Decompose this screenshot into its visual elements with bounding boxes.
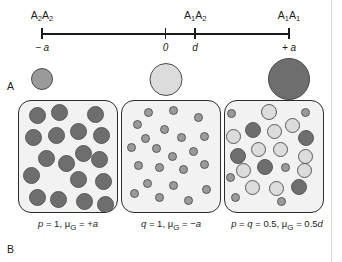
axis-value-label-tick-plus-a: + a (282, 42, 296, 53)
individual-dot (267, 124, 282, 139)
individual-dot (48, 127, 65, 144)
individual-dot (130, 189, 139, 198)
genotypic-value-figure: A2A2− a0A1A2dA1A1+ a A p = 1, μG = +aq =… (0, 0, 342, 262)
individual-dot (298, 130, 314, 146)
individual-dot (269, 181, 284, 196)
individual-dot (38, 150, 55, 167)
individual-dot (155, 193, 164, 202)
panel-label-a: A (7, 80, 14, 92)
tick-minus-a (41, 28, 43, 39)
individual-dot (184, 196, 193, 205)
individual-dot (50, 191, 67, 208)
ref-circle-A2A2 (31, 68, 53, 90)
individual-dot (231, 193, 240, 202)
individual-dot (143, 179, 152, 188)
individual-dot (169, 181, 178, 190)
tick-plus-a (288, 28, 290, 39)
axis-genotype-label-A2A2: A2A2 (31, 9, 53, 21)
individual-dot (29, 107, 46, 124)
individual-dot (285, 118, 300, 133)
individual-dot (202, 185, 211, 194)
individual-dot (160, 125, 169, 134)
individual-dot (226, 129, 241, 144)
population-pq05-caption: p = q = 0.5, μG = 0.5d (231, 218, 323, 232)
individual-dot (169, 106, 178, 115)
individual-dot (29, 189, 46, 206)
population-q1-box (121, 100, 221, 213)
individual-dot (179, 165, 188, 174)
axis-genotype-label-A1A1: A1A1 (278, 9, 300, 21)
individual-dot (227, 109, 236, 118)
tick-d (194, 28, 196, 39)
individual-dot (230, 148, 246, 164)
page-edge-line (331, 0, 332, 262)
individual-dot (93, 127, 110, 144)
individual-dot (245, 180, 260, 195)
individual-dot (75, 145, 92, 162)
axis-value-label-tick-minus-a: − a (35, 42, 49, 53)
individual-dot (127, 143, 136, 152)
individual-dot (76, 193, 93, 210)
individual-dot (298, 149, 313, 164)
population-p1-caption: p = 1, μG = +a (38, 218, 98, 232)
axis-genotype-label-A1A2: A1A2 (184, 9, 206, 21)
individual-dot (281, 163, 290, 172)
individual-dot (257, 159, 273, 175)
individual-dot (200, 132, 209, 141)
individual-dot (177, 133, 186, 142)
axis-value-label-tick-d: d (192, 42, 198, 53)
individual-dot (87, 106, 104, 123)
ref-circle-A1A2 (149, 63, 182, 96)
individual-dot (134, 161, 143, 170)
axis-value-label-tick-zero: 0 (163, 42, 169, 53)
individual-dot (155, 163, 164, 172)
individual-dot (23, 167, 40, 184)
individual-dot (70, 171, 87, 188)
individual-dot (273, 142, 288, 157)
individual-dot (91, 151, 108, 168)
individual-dot (152, 144, 161, 153)
individual-dot (261, 104, 277, 120)
individual-dot (51, 104, 68, 121)
individual-dot (277, 197, 286, 206)
panel-b-populations: p = 1, μG = +aq = 1, μG = −ap = q = 0.5,… (0, 92, 342, 262)
individual-dot (226, 173, 235, 182)
panel-label-b: B (7, 243, 14, 255)
individual-dot (200, 160, 209, 169)
individual-dot (236, 163, 251, 178)
individual-dot (297, 163, 312, 178)
panel-a-genotypic-scale: A2A2− a0A1A2dA1A1+ a (0, 0, 342, 92)
tick-zero (165, 28, 167, 39)
individual-dot (194, 113, 203, 122)
individual-dot (58, 155, 75, 172)
individual-dot (291, 179, 307, 195)
population-q1-caption: q = 1, μG = −a (141, 218, 201, 232)
population-pq05-box (224, 100, 324, 213)
individual-dot (25, 129, 42, 146)
individual-dot (168, 152, 177, 161)
individual-dot (189, 147, 198, 156)
individual-dot (301, 108, 310, 117)
individual-dot (245, 122, 261, 138)
population-p1-box (18, 100, 118, 213)
individual-dot (95, 173, 112, 190)
individual-dot (70, 123, 87, 140)
individual-dot (144, 108, 153, 117)
individual-dot (141, 134, 150, 143)
individual-dot (251, 142, 266, 157)
individual-dot (97, 196, 114, 213)
individual-dot (133, 120, 142, 129)
